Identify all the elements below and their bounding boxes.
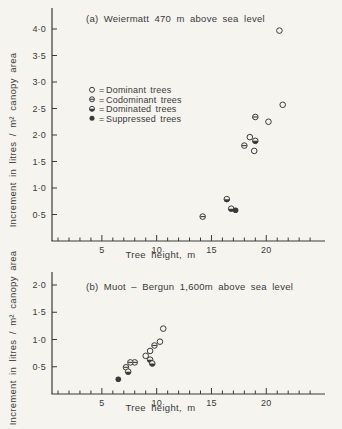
- y-tick-label: 1·5: [32, 307, 46, 317]
- data-point-codominant-trees: [152, 343, 158, 349]
- data-point-dominant-trees: [160, 326, 166, 332]
- legend-marker-suppressed-trees: [90, 116, 95, 121]
- legend-label-dominant-trees: Dominant trees: [106, 85, 172, 95]
- data-point-suppressed-trees: [116, 376, 122, 382]
- legend-equals: =: [99, 114, 104, 124]
- y-tick-label: 2·0: [32, 280, 46, 290]
- data-point-codominant-trees: [253, 114, 259, 120]
- legend-label-dominated-trees: Dominated trees: [106, 104, 177, 114]
- legend-marker-dominated-trees: [90, 106, 95, 111]
- data-point-dominant-trees: [147, 348, 153, 354]
- y-axis-title: Increment in litres / m² canopy area: [7, 52, 18, 227]
- chart-muot-bergun: 51015200·51·01·52·0(b) Muot – Bergun 1,6…: [7, 250, 325, 425]
- legend-equals: =: [99, 85, 104, 95]
- legend-marker-dominant-trees: [90, 87, 95, 92]
- x-tick-label: 15: [206, 245, 216, 255]
- y-tick-label: 1·5: [32, 157, 46, 167]
- data-point-dominated-trees: [125, 369, 131, 375]
- data-point-dominant-trees: [277, 28, 283, 34]
- legend-label-codominant-trees: Codominant trees: [106, 95, 182, 105]
- y-tick-label: 2·0: [32, 130, 46, 140]
- figure-svg: Increment per canopy area versus tree he…: [0, 0, 342, 429]
- y-tick-label: 3·5: [32, 51, 46, 61]
- x-tick-label: 15: [206, 398, 216, 408]
- data-point-dominant-trees: [266, 119, 272, 125]
- chart-title-muot-bergun: (b) Muot – Bergun 1,600m above sea level: [86, 281, 293, 292]
- chart-title-weiermatt: (a) Weiermatt 470 m above sea level: [86, 13, 265, 24]
- y-tick-label: 2·5: [32, 104, 46, 114]
- data-point-codominant-trees: [200, 214, 206, 220]
- data-point-dominant-trees: [280, 102, 286, 108]
- y-tick-label: 0·5: [32, 210, 46, 220]
- y-tick-label: 3·0: [32, 77, 46, 87]
- y-tick-label: 0·5: [32, 362, 46, 372]
- y-tick-label: 1·0: [32, 183, 46, 193]
- x-tick-label: 5: [99, 398, 104, 408]
- x-tick-label: 5: [99, 245, 104, 255]
- data-point-dominant-trees: [247, 134, 253, 140]
- data-point-dominated-trees: [253, 138, 259, 144]
- legend-label-suppressed-trees: Suppressed trees: [106, 114, 182, 124]
- chart-weiermatt: 51015200·51·01·52·02·53·03·54·0(a) Weier…: [7, 8, 325, 260]
- data-point-dominant-trees: [251, 148, 257, 154]
- legend-marker-codominant-trees: [90, 97, 95, 102]
- y-axis-title: Increment in litres / m² canopy area: [7, 250, 18, 425]
- data-point-dominant-trees: [157, 339, 163, 345]
- data-point-codominant-trees: [128, 360, 134, 366]
- x-axis-title: Tree height, m: [125, 402, 195, 413]
- x-tick-label: 20: [261, 398, 271, 408]
- legend-equals: =: [99, 104, 104, 114]
- data-point-dominated-trees: [224, 196, 230, 202]
- data-point-codominant-trees: [242, 143, 248, 149]
- x-axis-title: Tree height, m: [125, 249, 195, 260]
- data-point-suppressed-trees: [233, 207, 239, 213]
- x-tick-label: 20: [261, 245, 271, 255]
- legend-equals: =: [99, 95, 104, 105]
- y-tick-label: 4·0: [32, 24, 46, 34]
- legend: =Dominant trees=Codominant trees=Dominat…: [90, 85, 183, 124]
- data-point-dominated-trees: [149, 361, 155, 367]
- y-tick-label: 1·0: [32, 335, 46, 345]
